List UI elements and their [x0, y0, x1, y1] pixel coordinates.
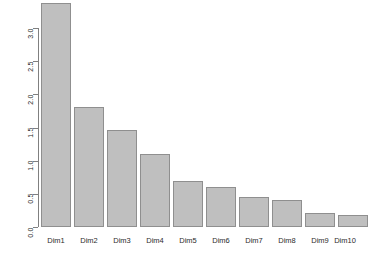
bar-dim1: [41, 3, 71, 227]
y-axis-tick-label-1: 0.5: [27, 194, 34, 224]
bar-dim2: [74, 107, 104, 227]
x-axis-label-dim7: Dim7: [239, 236, 269, 245]
y-axis-tick-label-5: 2.5: [27, 61, 34, 91]
bar-dim7: [239, 197, 269, 227]
y-axis-tick-label-3: 1.5: [27, 128, 34, 158]
bar-dim6: [206, 187, 236, 227]
plot-area: [38, 0, 350, 227]
bar-dim8: [272, 200, 302, 227]
bar-dim3: [107, 130, 137, 227]
x-axis-label-dim2: Dim2: [74, 236, 104, 245]
bar-dim9: [305, 213, 335, 227]
bar-dim10: [338, 215, 368, 227]
x-axis-label-dim6: Dim6: [206, 236, 236, 245]
bar-dim4: [140, 154, 170, 227]
y-axis-tick-label-4: 2.0: [27, 94, 34, 124]
bar-dim5: [173, 181, 203, 227]
x-axis-label-dim4: Dim4: [140, 236, 170, 245]
y-axis-tick-label-2: 1.0: [27, 161, 34, 191]
x-axis-label-dim5: Dim5: [173, 236, 203, 245]
y-axis-tick-0: [33, 227, 38, 228]
x-axis-label-dim10: Dim10: [330, 236, 360, 245]
y-axis-tick-label-0: 0.0: [27, 227, 34, 257]
x-axis-label-dim3: Dim3: [107, 236, 137, 245]
y-axis-tick-label-6: 3.0: [27, 28, 34, 58]
x-axis-label-dim1: Dim1: [41, 236, 71, 245]
x-axis-label-dim8: Dim8: [272, 236, 302, 245]
